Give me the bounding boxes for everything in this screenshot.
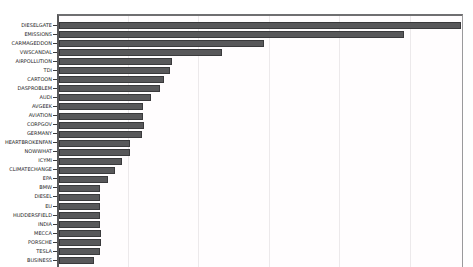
bar-india	[59, 221, 100, 228]
axis-tick	[53, 160, 57, 161]
category-label-airpollution: AIRPOLLUTION	[0, 59, 52, 64]
category-label-climatechange: CLIMATECHANGE	[0, 167, 52, 172]
axis-tick	[53, 206, 57, 207]
bar-tdi	[59, 67, 170, 74]
category-label-nowwhat: NOWWHAT	[0, 149, 52, 154]
bar-huddersfield	[59, 212, 100, 219]
axis-tick	[53, 260, 57, 261]
axis-tick	[53, 233, 57, 234]
bar-porsche	[59, 239, 101, 246]
bar-vwscandal	[59, 49, 222, 56]
category-label-tdi: TDI	[0, 68, 52, 73]
gridline	[269, 16, 270, 267]
bar-chart: DIESELGATEEMISSIONSCARMAGEDDONVWSCANDALA…	[0, 0, 473, 267]
category-label-eu: EU	[0, 204, 52, 209]
bar-heartbrokenfan	[59, 140, 130, 147]
category-label-aviation: AVIATION	[0, 113, 52, 118]
category-label-diesel: DIESEL	[0, 194, 52, 199]
gridline	[339, 16, 340, 267]
bar-tesla	[59, 248, 100, 255]
axis-tick	[53, 169, 57, 170]
bar-icymi	[59, 158, 122, 165]
axis-tick	[53, 106, 57, 107]
category-label-huddersfield: HUDDERSFIELD	[0, 213, 52, 218]
axis-tick	[53, 52, 57, 53]
category-label-corpgov: CORPGOV	[0, 122, 52, 127]
category-label-heartbrokenfan: HEARTBROKENFAN	[0, 140, 52, 145]
axis-tick	[53, 97, 57, 98]
category-label-germany: GERMANY	[0, 131, 52, 136]
category-label-avgeek: AVGEEK	[0, 104, 52, 109]
category-label-tesla: TESLA	[0, 249, 52, 254]
category-label-icymi: ICYMI	[0, 158, 52, 163]
bar-diesel	[59, 194, 100, 201]
axis-tick	[53, 61, 57, 62]
bar-carmageddon	[59, 40, 264, 47]
bar-business	[59, 257, 94, 264]
category-label-mecca: MECCA	[0, 231, 52, 236]
axis-tick	[53, 88, 57, 89]
bar-mecca	[59, 230, 101, 237]
bar-epa	[59, 176, 108, 183]
axis-tick	[53, 215, 57, 216]
bar-bmw	[59, 185, 100, 192]
axis-tick	[53, 142, 57, 143]
gridline	[410, 16, 411, 267]
category-label-bmw: BMW	[0, 185, 52, 190]
category-label-business: BUSINESS	[0, 258, 52, 263]
axis-tick	[53, 25, 57, 26]
category-label-porsche: PORSCHE	[0, 240, 52, 245]
axis-tick	[53, 115, 57, 116]
axis-tick	[53, 251, 57, 252]
bar-dasproblem	[59, 85, 160, 92]
bar-airpollution	[59, 58, 172, 65]
category-label-cartoon: CARTOON	[0, 77, 52, 82]
axis-tick	[53, 242, 57, 243]
axis-tick	[53, 224, 57, 225]
bar-eu	[59, 203, 100, 210]
axis-tick	[53, 79, 57, 80]
axis-tick	[53, 34, 57, 35]
axis-tick	[53, 43, 57, 44]
plot-area	[57, 14, 463, 267]
category-label-audi: AUDI	[0, 95, 52, 100]
bar-audi	[59, 94, 151, 101]
category-label-carmageddon: CARMAGEDDON	[0, 41, 52, 46]
category-label-dasproblem: DASPROBLEM	[0, 86, 52, 91]
bar-dieselgate	[59, 22, 461, 29]
bar-climatechange	[59, 167, 115, 174]
axis-tick	[53, 133, 57, 134]
category-label-india: INDIA	[0, 222, 52, 227]
bar-corpgov	[59, 122, 144, 129]
bar-nowwhat	[59, 149, 130, 156]
bar-aviation	[59, 113, 143, 120]
category-label-vwscandal: VWSCANDAL	[0, 50, 52, 55]
bar-emissions	[59, 31, 404, 38]
bar-cartoon	[59, 76, 164, 83]
axis-tick	[53, 196, 57, 197]
axis-tick	[53, 70, 57, 71]
category-label-dieselgate: DIESELGATE	[0, 23, 52, 28]
bar-avgeek	[59, 103, 143, 110]
axis-tick	[53, 178, 57, 179]
bar-germany	[59, 131, 142, 138]
axis-tick	[53, 187, 57, 188]
axis-tick	[53, 151, 57, 152]
category-label-emissions: EMISSIONS	[0, 32, 52, 37]
category-label-epa: EPA	[0, 176, 52, 181]
axis-tick	[53, 124, 57, 125]
